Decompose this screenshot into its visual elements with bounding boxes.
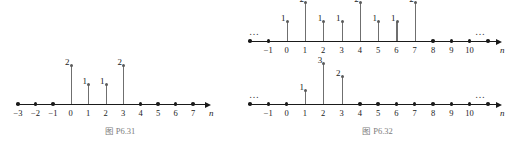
stem-value-label: 2 <box>398 0 414 4</box>
zero-sample-dot <box>267 39 271 43</box>
x-tick-label: 8 <box>425 46 441 55</box>
stem-marker <box>414 1 417 4</box>
stem-marker <box>341 75 344 78</box>
x-tick-label: 7 <box>185 109 201 118</box>
zero-sample-dot <box>395 102 399 106</box>
x-tick-label: 2 <box>315 109 331 118</box>
zero-sample-dot <box>16 102 20 106</box>
zero-sample-dot <box>376 102 380 106</box>
stem-value-label: 1 <box>379 14 395 23</box>
x-tick-label: −3 <box>10 109 26 118</box>
x-tick-label: 3 <box>334 109 350 118</box>
stem-marker <box>70 64 73 67</box>
x-tick-label: 6 <box>168 109 184 118</box>
zero-sample-dot <box>486 39 490 43</box>
zero-sample-dot <box>248 39 252 43</box>
stem-marker <box>396 20 399 23</box>
x-tick-label: −1 <box>260 109 276 118</box>
axis-line <box>250 41 497 42</box>
stem-value-label: 2 <box>288 0 304 4</box>
x-tick-label: −1 <box>45 109 61 118</box>
x-tick-label: 2 <box>98 109 114 118</box>
figure-caption-p6-32: 图 P6.32 <box>240 126 515 136</box>
left-ellipsis: … <box>249 27 260 37</box>
stem-line <box>415 3 416 41</box>
x-tick-label: 1 <box>297 46 313 55</box>
x-tick-label: 5 <box>370 109 386 118</box>
zero-sample-dot <box>51 102 55 106</box>
x-tick-label: 6 <box>388 46 404 55</box>
stem-value-label: 2 <box>106 58 122 67</box>
x-tick-label: 4 <box>352 109 368 118</box>
stem-line <box>88 85 89 104</box>
x-tick-label: 0 <box>279 109 295 118</box>
zero-sample-dot <box>450 102 454 106</box>
zero-sample-dot <box>191 102 195 106</box>
stem-value-label: 1 <box>325 14 341 23</box>
axis-arrow-icon <box>496 102 502 108</box>
x-tick-label: 9 <box>443 46 459 55</box>
zero-sample-dot <box>358 102 362 106</box>
stem-line <box>378 22 379 41</box>
x-tick-label: −1 <box>260 46 276 55</box>
x-tick-label: 0 <box>279 46 295 55</box>
zero-sample-dot <box>431 39 435 43</box>
left-ellipsis: … <box>249 90 260 100</box>
x-tick-label: 4 <box>352 46 368 55</box>
stem-value-label: 2 <box>54 58 70 67</box>
axis-arrow-icon <box>205 102 211 108</box>
zero-sample-dot <box>267 102 271 106</box>
x-tick-label: 3 <box>334 46 350 55</box>
axis-line <box>18 104 206 105</box>
zero-sample-dot <box>248 102 252 106</box>
stem-marker <box>122 64 125 67</box>
zero-sample-dot <box>139 102 143 106</box>
x-tick-label: 1 <box>297 109 313 118</box>
zero-sample-dot <box>174 102 178 106</box>
x-tick-label: −2 <box>28 109 44 118</box>
x-tick-label: 10 <box>462 109 478 118</box>
stem-value-label: 1 <box>71 77 87 86</box>
x-tick-label: 3 <box>115 109 131 118</box>
stem-line <box>396 22 397 41</box>
stem-marker <box>304 89 307 92</box>
stem-line <box>287 22 288 41</box>
stem-value-label: 3 <box>306 56 322 65</box>
stem-line <box>123 66 124 104</box>
x-tick-label: 4 <box>133 109 149 118</box>
stem-marker <box>304 1 307 4</box>
stem-marker <box>105 83 108 86</box>
axis-label-n: n <box>500 46 505 55</box>
zero-sample-dot <box>450 39 454 43</box>
x-tick-label: 10 <box>462 46 478 55</box>
axis-label-n: n <box>209 109 214 118</box>
stem-line <box>323 22 324 41</box>
stem-value-label: 2 <box>325 69 341 78</box>
zero-sample-dot <box>431 102 435 106</box>
x-tick-label: 8 <box>425 109 441 118</box>
stem-line <box>342 77 343 104</box>
x-tick-label: 9 <box>443 109 459 118</box>
zero-sample-dot <box>156 102 160 106</box>
x-tick-label: 7 <box>407 46 423 55</box>
figure-p6-31: n−3−2−1012345672112 图 P6.31 <box>0 0 240 149</box>
x-tick-label: 6 <box>388 109 404 118</box>
x-tick-label: 7 <box>407 109 423 118</box>
stem-value-label: 1 <box>270 14 286 23</box>
x-tick-label: 2 <box>315 46 331 55</box>
stem-marker <box>286 20 289 23</box>
stem-marker <box>322 62 325 65</box>
x-tick-label: 1 <box>80 109 96 118</box>
stem-marker <box>359 1 362 4</box>
stem-value-label: 1 <box>89 77 105 86</box>
stem-value-label: 2 <box>343 0 359 4</box>
zero-sample-dot <box>34 102 38 106</box>
stem-line <box>106 85 107 104</box>
figure-caption-p6-31: 图 P6.31 <box>0 126 240 136</box>
zero-sample-dot <box>486 102 490 106</box>
axis-label-n: n <box>500 109 505 118</box>
x-tick-label: 5 <box>370 46 386 55</box>
axis-arrow-icon <box>496 39 502 45</box>
stem-value-label: 1 <box>306 14 322 23</box>
stem-line <box>305 91 306 105</box>
